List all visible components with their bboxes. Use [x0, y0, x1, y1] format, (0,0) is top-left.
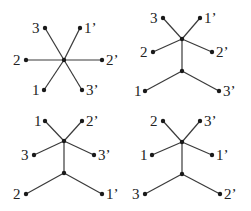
leaf-label: 3 — [21, 147, 29, 163]
leaf-node — [24, 192, 28, 196]
leaf-label: 3’ — [86, 82, 99, 98]
leaf-edge — [145, 174, 182, 194]
leaf-node — [161, 119, 165, 123]
panel-tree-b: 12’33’21’ — [13, 113, 119, 202]
internal-node — [180, 37, 184, 41]
leaf-node — [218, 192, 222, 196]
leaf-label: 2 — [13, 186, 21, 202]
leaf-label: 2’ — [106, 52, 119, 68]
leaf-label: 2 — [13, 52, 21, 68]
leaf-edge — [64, 60, 82, 90]
leaf-label: 1 — [134, 83, 142, 99]
leaf-label: 2’ — [86, 113, 99, 129]
leaf-node — [210, 50, 214, 54]
leaf-label: 1’ — [84, 20, 97, 36]
leaf-node — [161, 16, 165, 20]
leaf-edge — [182, 18, 200, 39]
leaf-label: 3 — [32, 20, 40, 36]
leaf-node — [217, 89, 221, 93]
leaf-label: 2 — [150, 113, 158, 129]
leaf-label: 3 — [150, 10, 158, 26]
leaf-edge — [34, 141, 64, 155]
leaf-node — [92, 153, 96, 157]
leaf-edge — [64, 121, 82, 141]
leaf-node — [80, 119, 84, 123]
leaf-edge — [45, 121, 64, 141]
leaf-edge — [26, 173, 64, 194]
leaf-node — [210, 153, 214, 157]
leaf-label: 1 — [140, 147, 148, 163]
leaf-edge — [64, 28, 80, 60]
leaf-edge — [182, 39, 212, 52]
leaf-node — [100, 58, 104, 62]
tree-diagram-figure: 31’22’13’31’22’13’12’33’21’23’11’32’ — [0, 0, 251, 211]
leaf-edge — [145, 71, 182, 91]
leaf-label: 3 — [132, 186, 140, 202]
leaf-node — [42, 88, 46, 92]
leaf-edge — [182, 121, 200, 142]
leaf-node — [151, 50, 155, 54]
leaf-edge — [64, 141, 94, 155]
leaf-node — [43, 26, 47, 30]
leaf-node — [150, 153, 154, 157]
leaf-edge — [182, 71, 219, 91]
leaf-edge — [44, 60, 64, 90]
leaf-edge — [64, 173, 102, 194]
leaf-label: 1’ — [204, 10, 217, 26]
internal-node — [62, 171, 66, 175]
leaf-label: 3’ — [98, 147, 111, 163]
leaf-edge — [45, 28, 64, 60]
leaf-node — [143, 192, 147, 196]
leaf-node — [24, 58, 28, 62]
internal-node — [180, 172, 184, 176]
leaf-edge — [163, 121, 182, 142]
leaf-label: 1’ — [216, 147, 229, 163]
leaf-edge — [163, 18, 182, 39]
leaf-node — [198, 119, 202, 123]
leaf-label: 3’ — [223, 83, 236, 99]
leaf-node — [198, 16, 202, 20]
leaf-node — [100, 192, 104, 196]
leaf-node — [32, 153, 36, 157]
leaf-edge — [182, 174, 220, 194]
internal-node — [180, 140, 184, 144]
diagram-canvas: 31’22’13’31’22’13’12’33’21’23’11’32’ — [0, 0, 251, 211]
leaf-node — [80, 88, 84, 92]
leaf-edge — [182, 142, 212, 155]
leaf-label: 1 — [34, 113, 42, 129]
leaf-label: 2 — [140, 44, 148, 60]
leaf-edge — [152, 142, 182, 155]
leaf-label: 1 — [32, 82, 40, 98]
internal-node — [62, 58, 66, 62]
internal-node — [62, 139, 66, 143]
leaf-node — [143, 89, 147, 93]
internal-node — [180, 69, 184, 73]
leaf-node — [43, 119, 47, 123]
panel-tree-a: 31’22’13’ — [134, 10, 236, 99]
leaf-node — [78, 26, 82, 30]
leaf-label: 2’ — [224, 186, 237, 202]
panel-star: 31’22’13’ — [13, 20, 119, 98]
panel-tree-c: 23’11’32’ — [132, 113, 237, 202]
leaf-label: 3’ — [204, 113, 217, 129]
leaf-label: 2’ — [216, 44, 229, 60]
leaf-label: 1’ — [106, 186, 119, 202]
leaf-edge — [153, 39, 182, 52]
